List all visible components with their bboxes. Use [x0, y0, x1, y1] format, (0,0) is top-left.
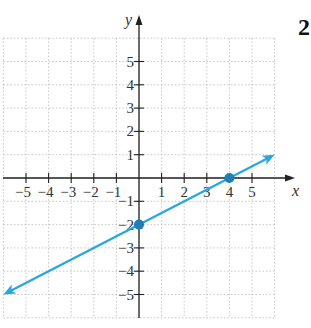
- data-point: [134, 220, 144, 230]
- y-tick-label: −5: [118, 287, 134, 303]
- y-axis-arrow-icon: [136, 15, 143, 25]
- x-axis-label: x: [291, 182, 299, 199]
- y-tick-label: −4: [118, 263, 134, 279]
- y-tick-label: −3: [118, 240, 134, 256]
- y-tick-label: −1: [118, 193, 134, 209]
- y-tick-label: 4: [127, 77, 135, 93]
- x-tick-label: −4: [38, 184, 54, 200]
- coordinate-plane: −5−4−3−2−112345−5−4−3−2−112345xy: [0, 0, 311, 328]
- x-tick-label: −3: [60, 184, 76, 200]
- y-tick-label: 3: [127, 100, 135, 116]
- data-point: [224, 173, 234, 183]
- x-tick-label: −5: [15, 184, 31, 200]
- x-tick-label: 5: [248, 184, 256, 200]
- x-axis-arrow-icon: [285, 175, 295, 182]
- y-tick-label: 5: [127, 54, 135, 70]
- problem-number: 2: [298, 14, 310, 41]
- y-axis-label: y: [123, 11, 133, 29]
- x-tick-label: 2: [180, 184, 188, 200]
- x-tick-label: 4: [226, 184, 234, 200]
- y-tick-label: 2: [127, 123, 135, 139]
- y-tick-label: 1: [127, 147, 135, 163]
- x-tick-label: 1: [158, 184, 166, 200]
- x-tick-label: −2: [83, 184, 99, 200]
